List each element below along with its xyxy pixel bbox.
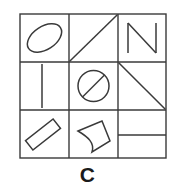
cell-r1c2 [119,63,166,110]
answer-option-figure[interactable]: C [0,0,175,192]
tilted-rectangle-icon [26,119,61,150]
cell-r2c1 [78,121,110,152]
cell-r0c2 [128,23,156,53]
curved-quadrilateral-icon [78,121,110,152]
cell-r2c0 [26,119,61,150]
diagonal-line-up-icon [70,15,118,62]
cell-r0c0 [22,18,66,58]
tilted-ellipse-icon [22,18,66,58]
diagonal-line-down-icon [119,63,166,110]
slash-line-icon [83,75,105,97]
cell-r0c1 [70,15,118,62]
option-label: C [0,160,175,190]
letter-n-diagonal-stroke [128,23,156,53]
cell-r1c1 [78,71,109,102]
